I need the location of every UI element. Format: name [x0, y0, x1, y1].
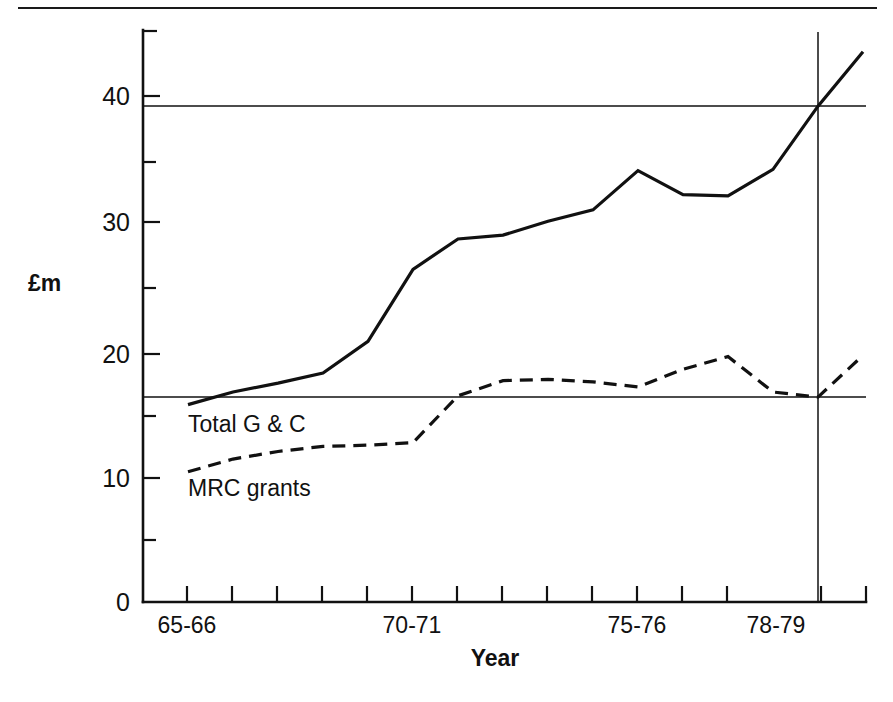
chart-figure: 40 30 20 10 0 £m 65-66 70-71 75-76 78-79… — [0, 0, 893, 702]
y-minor-ticks — [143, 162, 156, 540]
x-tick-label-78-79: 78-79 — [722, 612, 830, 639]
series-line-total-g-and-c — [188, 52, 863, 405]
axis-group — [143, 30, 866, 602]
x-tick-label-65-66: 65-66 — [133, 612, 241, 639]
series-label-mrc-grants: MRC grants — [188, 475, 311, 502]
y-tick-label-10: 10 — [86, 464, 130, 493]
y-axis-title: £m — [28, 270, 61, 297]
x-tick-label-70-71: 70-71 — [358, 612, 466, 639]
reference-lines — [143, 32, 866, 602]
y-tick-label-40: 40 — [86, 82, 130, 111]
chart-canvas — [0, 0, 893, 702]
y-tick-label-0: 0 — [86, 588, 130, 617]
x-ticks — [187, 586, 866, 602]
y-tick-label-20: 20 — [86, 340, 130, 369]
x-axis-title: Year — [440, 645, 550, 672]
series-label-total-g-and-c: Total G & C — [188, 411, 306, 438]
x-tick-label-75-76: 75-76 — [583, 612, 691, 639]
y-tick-label-30: 30 — [86, 208, 130, 237]
